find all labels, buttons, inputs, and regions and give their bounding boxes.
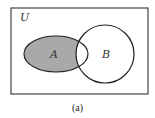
figure-caption: (a) xyxy=(72,102,83,114)
universe-label: U xyxy=(20,11,30,24)
venn-diagram: U A B (a) xyxy=(0,0,155,118)
set-b-label: B xyxy=(101,48,110,61)
set-a-label: A xyxy=(49,48,58,61)
